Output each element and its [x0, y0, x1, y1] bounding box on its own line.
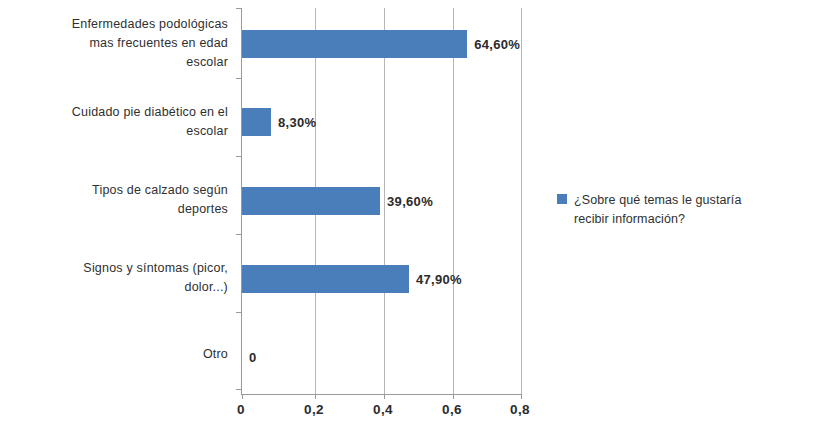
- bar-value-1: 8,30%: [278, 115, 316, 130]
- x-axis-tick: [315, 394, 316, 399]
- category-label-line: Otro: [0, 345, 228, 364]
- y-axis-tick: [236, 234, 242, 235]
- category-label-3: Signos y síntomas (picor, dolor...): [0, 259, 228, 297]
- x-axis-tick: [521, 394, 522, 399]
- category-label-line: dolor...): [0, 278, 228, 297]
- bar-3: [242, 265, 409, 293]
- gridline-0.6: [453, 8, 454, 394]
- legend-swatch-icon: [557, 194, 567, 204]
- legend-entry-label: ¿Sobre qué temas le gustaría recibir inf…: [574, 191, 741, 229]
- category-label-2: Tipos de calzado según deportes: [0, 181, 228, 219]
- category-label-line: escolar: [0, 53, 228, 72]
- category-axis-labels: Enfermedades podológicas mas frecuentes …: [0, 0, 236, 395]
- bar-value-2: 39,60%: [387, 194, 433, 209]
- legend-label-line: recibir información?: [574, 210, 741, 229]
- bar-value-3: 47,90%: [416, 272, 462, 287]
- category-label-line: mas frecuentes en edad: [0, 34, 228, 53]
- x-axis-labels: 0 0,2 0,4 0,6 0,8: [241, 402, 531, 426]
- y-axis-tick: [236, 78, 242, 79]
- bar-value-4: 0: [249, 350, 257, 365]
- gridline-0.4: [384, 8, 385, 394]
- bar-1: [242, 108, 271, 136]
- category-label-line: deportes: [0, 200, 228, 219]
- y-axis-tick: [236, 8, 242, 9]
- category-label-line: Cuidado pie diabético en el: [0, 103, 228, 122]
- bar-value-0: 64,60%: [474, 37, 520, 52]
- y-axis-tick: [236, 312, 242, 313]
- category-label-line: Signos y síntomas (picor,: [0, 259, 228, 278]
- x-tick-label-0: 0: [237, 402, 245, 417]
- bar-0: [242, 30, 467, 58]
- x-axis-tick: [453, 394, 454, 399]
- x-tick-label-2: 0,4: [373, 402, 393, 417]
- x-axis-tick: [242, 394, 243, 399]
- y-axis-tick: [236, 389, 242, 390]
- category-label-line: Enfermedades podológicas: [0, 15, 228, 34]
- category-label-0: Enfermedades podológicas mas frecuentes …: [0, 15, 228, 72]
- chart-legend: ¿Sobre qué temas le gustaría recibir inf…: [557, 191, 741, 229]
- bar-chart: Enfermedades podológicas mas frecuentes …: [0, 0, 816, 430]
- y-axis-tick: [236, 156, 242, 157]
- x-tick-label-4: 0,8: [510, 402, 530, 417]
- category-label-4: Otro: [0, 345, 228, 364]
- plot-area: 64,60% 8,30% 39,60% 47,90% 0: [241, 8, 521, 395]
- gridline-0.8: [521, 8, 522, 394]
- x-tick-label-3: 0,6: [442, 402, 462, 417]
- bar-2: [242, 187, 380, 215]
- legend-label-line: ¿Sobre qué temas le gustaría: [574, 191, 741, 210]
- category-label-line: escolar: [0, 122, 228, 141]
- x-tick-label-1: 0,2: [304, 402, 324, 417]
- category-label-1: Cuidado pie diabético en el escolar: [0, 103, 228, 141]
- category-label-line: Tipos de calzado según: [0, 181, 228, 200]
- x-axis-tick: [384, 394, 385, 399]
